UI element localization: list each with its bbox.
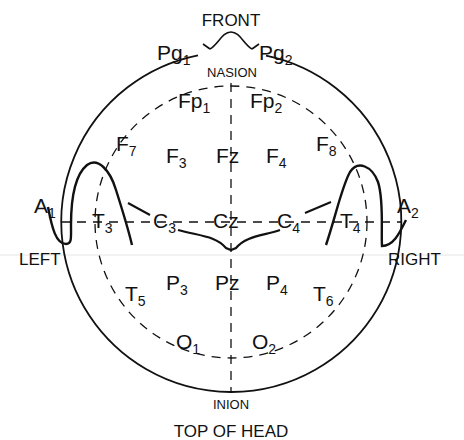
electrode-t5: T5 [125, 282, 146, 309]
inion-label: INION [213, 397, 249, 412]
nose-outline [203, 32, 259, 49]
electrode-c4: C4 [277, 209, 300, 236]
electrode-f8: F8 [316, 132, 337, 159]
right-label: RIGHT [388, 250, 441, 269]
eeg-10-20-electrode-diagram: FRONT NASION INION TOP OF HEAD LEFT RIGH… [0, 0, 464, 440]
electrode-pg2: Pg2 [259, 41, 293, 68]
electrode-pz: Pz [215, 271, 240, 294]
electrode-t6: T6 [313, 282, 334, 309]
c3-ear-line [128, 203, 150, 215]
electrode-o1: O1 [176, 330, 200, 357]
electrode-a2: A2 [397, 194, 419, 221]
electrode-cz: Cz [213, 209, 239, 232]
nasion-label: NASION [207, 65, 257, 80]
electrode-a1: A1 [34, 194, 56, 221]
electrode-c3: C3 [153, 209, 176, 236]
electrode-fz: Fz [216, 144, 239, 167]
electrode-t4: T4 [340, 209, 361, 236]
electrode-f7: F7 [116, 132, 137, 159]
electrode-pg1: Pg1 [157, 41, 191, 68]
electrode-f4: F4 [266, 144, 287, 171]
c4-ear-line [305, 202, 331, 213]
electrode-o2: O2 [252, 330, 276, 357]
electrode-f3: F3 [166, 144, 187, 171]
footer-title: TOP OF HEAD [174, 422, 289, 440]
electrode-t3: T3 [92, 209, 113, 236]
front-title: FRONT [202, 11, 261, 30]
electrode-p3: P3 [166, 271, 188, 298]
electrode-fp1: Fp1 [178, 89, 211, 116]
electrode-p4: P4 [266, 271, 288, 298]
left-ear [48, 163, 132, 245]
left-label: LEFT [19, 250, 61, 269]
central-brace [178, 230, 280, 250]
electrode-fp2: Fp2 [250, 89, 283, 116]
